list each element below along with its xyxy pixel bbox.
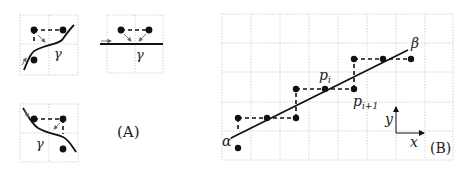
grid-point bbox=[380, 56, 386, 62]
point-p-i bbox=[322, 86, 328, 92]
p-i-plus-1-label: pi+1 bbox=[353, 93, 378, 111]
grid-point bbox=[31, 116, 38, 123]
curve-gamma bbox=[23, 108, 76, 152]
x-axis-label: x bbox=[410, 134, 418, 150]
alpha-label: α bbox=[222, 133, 232, 149]
point-p-i-plus-1 bbox=[351, 86, 357, 92]
axes-indicator: y x bbox=[384, 107, 424, 150]
panel-a-case-3: γ bbox=[20, 104, 78, 162]
grid-point bbox=[235, 115, 241, 121]
arrow-icon bbox=[54, 123, 60, 129]
arrow-icon bbox=[24, 110, 29, 117]
panel-b: α β pi pi+1 y x (B) bbox=[222, 14, 453, 160]
grid-point bbox=[264, 115, 270, 121]
panel-a-case-2: γ bbox=[100, 15, 163, 73]
grid-point bbox=[408, 56, 414, 62]
grid-point bbox=[60, 146, 67, 153]
grid-point bbox=[351, 56, 357, 62]
grid-point bbox=[235, 145, 241, 151]
p-i-label: pi bbox=[319, 67, 331, 85]
arrow-icon bbox=[124, 34, 131, 41]
gamma-label: γ bbox=[36, 136, 44, 151]
arrow-icon bbox=[139, 34, 146, 41]
panel-a-case-1: γ bbox=[20, 15, 78, 75]
figure-canvas: γ γ γ (A) bbox=[0, 0, 470, 173]
grid-point bbox=[146, 27, 153, 34]
panel-a-label: (A) bbox=[117, 123, 140, 141]
grid-point bbox=[31, 27, 38, 34]
grid-point bbox=[293, 86, 299, 92]
segment-alpha-beta bbox=[231, 50, 408, 138]
gamma-label: γ bbox=[136, 47, 144, 62]
panel-b-label: (B) bbox=[430, 140, 451, 156]
grid-point bbox=[31, 57, 38, 64]
grid-point bbox=[60, 27, 67, 34]
grid-point bbox=[118, 27, 125, 34]
grid-point bbox=[293, 115, 299, 121]
beta-label: β bbox=[410, 35, 419, 51]
grid-point bbox=[60, 116, 67, 123]
gamma-label: γ bbox=[54, 46, 62, 61]
arrow-icon bbox=[38, 35, 45, 42]
y-axis-label: y bbox=[384, 111, 394, 127]
arrow-icon bbox=[22, 58, 26, 65]
